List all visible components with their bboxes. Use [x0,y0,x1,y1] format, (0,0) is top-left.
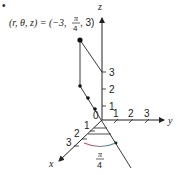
angle-arc-end [115,142,118,145]
y-tick-1: 1 [113,108,119,119]
x-tick-3: 3 [66,137,72,148]
z-tick-3: 3 [109,67,115,78]
y-axis-label: y [167,115,173,126]
projection-dot-1 [78,84,82,88]
z-ticks: 1 2 3 [102,67,115,112]
point-marker [77,37,82,42]
angle-den: 4 [97,160,102,170]
angle-arc [84,143,116,147]
x-axis-label: x [48,158,54,169]
x-tick-2: 2 [74,128,80,139]
z-tick-2: 2 [109,84,115,95]
projection-dot-2 [86,96,90,100]
equation-label: (r, θ, z) = (−3, π 4 , 3) [9,14,94,33]
cylindrical-coordinates-diagram: • (r, θ, z) = (−3, π 4 , 3) z 1 2 3 y 1 … [0,0,177,175]
y-tick-2: 2 [128,108,134,119]
angle-num: π [98,150,103,159]
equation-lhs: (r, θ, z) = (−3, [9,17,67,29]
equation-frac-den: 4 [73,24,78,33]
x-tick-1: 1 [84,120,90,131]
angle-label: π 4 [96,150,104,170]
projection-dot-3 [93,107,97,111]
y-tick-3: 3 [144,108,150,119]
equation-rhs: , 3) [80,17,94,28]
y-ticks: 1 2 3 [113,108,150,123]
bullet-marker: • [2,0,6,11]
z-axis-label: z [97,1,102,12]
point-to-z-line [80,40,102,72]
equation-frac-num: π [74,14,79,23]
